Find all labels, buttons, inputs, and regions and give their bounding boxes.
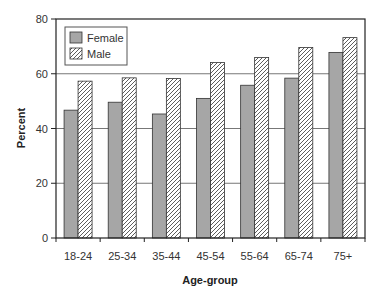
y-axis: 020406080 xyxy=(36,13,56,244)
bar-female-25-34 xyxy=(108,102,122,238)
x-tick-label: 65-74 xyxy=(285,250,313,262)
bar-male-75+ xyxy=(343,38,357,238)
bar-male-18-24 xyxy=(78,81,92,238)
bar-male-65-74 xyxy=(299,47,313,238)
legend-label-male: Male xyxy=(87,48,111,60)
bar-female-45-54 xyxy=(197,98,211,238)
y-tick-label: 60 xyxy=(36,68,48,80)
y-tick-label: 0 xyxy=(42,232,48,244)
bar-female-35-44 xyxy=(152,114,166,238)
legend-label-female: Female xyxy=(87,32,124,44)
bar-male-45-54 xyxy=(211,63,225,238)
bar-female-55-64 xyxy=(241,85,255,238)
bar-male-25-34 xyxy=(122,78,136,238)
legend-swatch-female xyxy=(70,32,82,43)
bar-female-65-74 xyxy=(285,78,299,238)
bar-female-75+ xyxy=(329,52,343,238)
x-tick-label: 25-34 xyxy=(108,250,136,262)
bar-chart: 020406080 18-2425-3435-4445-5455-6465-74… xyxy=(0,0,381,299)
x-tick-label: 18-24 xyxy=(64,250,92,262)
y-tick-label: 80 xyxy=(36,13,48,25)
x-tick-label: 75+ xyxy=(334,250,353,262)
x-axis-title: Age-group xyxy=(182,274,238,286)
y-tick-label: 20 xyxy=(36,177,48,189)
x-tick-label: 45-54 xyxy=(196,250,224,262)
y-tick-label: 40 xyxy=(36,123,48,135)
bar-female-18-24 xyxy=(64,110,78,238)
legend: Female Male xyxy=(65,27,127,65)
x-tick-label: 35-44 xyxy=(152,250,180,262)
bar-male-35-44 xyxy=(166,78,180,238)
x-tick-label: 55-64 xyxy=(241,250,269,262)
bars xyxy=(64,38,357,238)
bar-male-55-64 xyxy=(255,58,269,238)
legend-swatch-male xyxy=(70,48,82,59)
y-axis-title: Percent xyxy=(15,107,27,148)
x-axis: 18-2425-3435-4445-5455-6465-7475+ xyxy=(56,238,365,262)
